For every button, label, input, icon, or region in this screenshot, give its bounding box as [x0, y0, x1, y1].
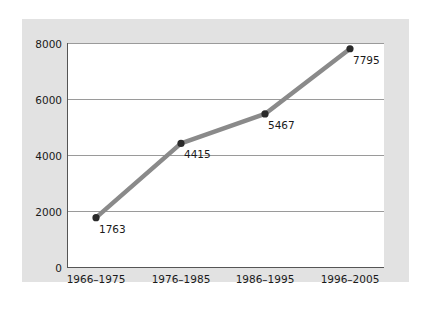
data-label: 1763 — [99, 223, 126, 235]
y-tick-label: 0 — [55, 262, 62, 274]
x-tick-label: 1986–1995 — [236, 273, 295, 285]
x-tick-label: 1966–1975 — [67, 273, 126, 285]
x-tick-label: 1976–1985 — [152, 273, 211, 285]
y-tick-label: 8000 — [35, 38, 62, 50]
line-chart: 02000400060008000 1966–19751976–19851986… — [0, 0, 429, 317]
y-tick-label: 2000 — [35, 206, 62, 218]
x-axis-labels: 1966–19751976–19851986–19951996–2005 — [67, 273, 380, 285]
data-point-marker — [261, 110, 268, 117]
data-point-marker — [92, 214, 99, 221]
y-tick-label: 4000 — [35, 150, 62, 162]
data-label: 7795 — [353, 54, 380, 66]
data-label: 4415 — [184, 148, 211, 160]
data-label: 5467 — [268, 119, 295, 131]
y-tick-label: 6000 — [35, 94, 62, 106]
y-axis-labels: 02000400060008000 — [35, 38, 62, 274]
data-point-marker — [177, 140, 184, 147]
x-tick-label: 1996–2005 — [321, 273, 380, 285]
data-point-marker — [346, 45, 353, 52]
